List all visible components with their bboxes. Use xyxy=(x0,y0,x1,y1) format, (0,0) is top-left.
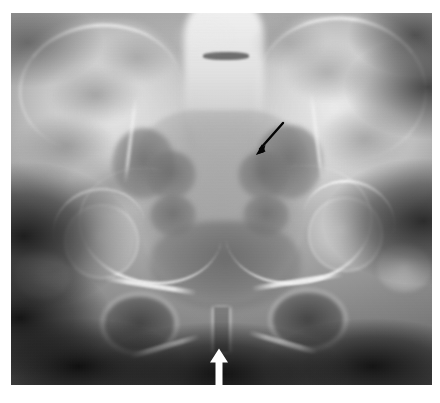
vertebral-endplate-line xyxy=(203,52,249,60)
pelvis-radiograph-image xyxy=(11,13,432,385)
figure-root xyxy=(0,0,440,403)
white-arrow-icon xyxy=(207,346,231,391)
greater-trochanter-left-region xyxy=(15,251,70,299)
pubic-symphysis-region xyxy=(214,307,228,352)
black-arrow-icon xyxy=(249,121,287,161)
greater-trochanter-right-region xyxy=(377,244,432,292)
